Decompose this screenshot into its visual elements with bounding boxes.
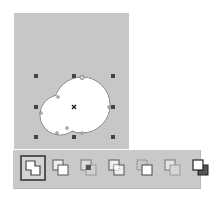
back-minus-front-icon — [162, 157, 184, 179]
handle-top-center — [72, 74, 76, 78]
handle-top-right — [111, 74, 115, 78]
weld-icon — [22, 157, 44, 179]
front-minus-back-icon — [134, 157, 156, 179]
simplify-icon — [106, 157, 128, 179]
handle-bottom-center — [72, 135, 76, 139]
intersect-icon — [78, 157, 100, 179]
intersect-button[interactable] — [76, 155, 102, 181]
handle-middle-left — [34, 105, 38, 109]
handle-top-left — [34, 74, 38, 78]
shaping-toolbar — [13, 150, 201, 189]
handle-bottom-left — [34, 135, 38, 139]
trim-button[interactable] — [48, 155, 74, 181]
weld-button[interactable] — [20, 155, 46, 181]
back-minus-front-button[interactable] — [160, 155, 186, 181]
create-boundary-button[interactable] — [188, 155, 214, 181]
trim-icon — [50, 157, 72, 179]
handle-middle-right — [111, 105, 115, 109]
handle-bottom-right — [111, 135, 115, 139]
create-boundary-icon — [190, 157, 212, 179]
front-minus-back-button[interactable] — [132, 155, 158, 181]
simplify-button[interactable] — [104, 155, 130, 181]
